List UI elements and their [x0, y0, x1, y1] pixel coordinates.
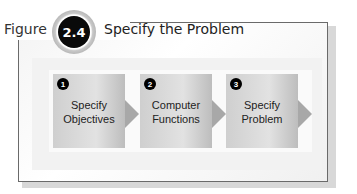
step-label-line1: Specify [226, 98, 298, 112]
step-label-line1: Specify [53, 98, 125, 112]
arrow-right-icon [125, 100, 139, 128]
step-2-arrow-box: 2 Computer Functions [140, 74, 224, 148]
step-1-arrow-box: 1 Specify Objectives [53, 74, 137, 148]
step-label-line2: Functions [140, 112, 212, 126]
step-number-badge: 2 [144, 78, 156, 90]
step-label-line1: Computer [140, 98, 212, 112]
step-label: Specify Objectives [53, 98, 125, 126]
step-3-arrow-box: 3 Specify Problem [226, 74, 310, 148]
step-number-badge: 1 [57, 78, 69, 90]
figure-title: Specify the Problem [104, 21, 244, 37]
figure-number-badge: 2.4 [58, 16, 90, 48]
arrow-right-icon [298, 100, 312, 128]
step-label: Specify Problem [226, 98, 298, 126]
arrow-right-icon [212, 100, 226, 128]
step-label: Computer Functions [140, 98, 212, 126]
step-label-line2: Objectives [53, 112, 125, 126]
step-number-badge: 3 [230, 78, 242, 90]
step-label-line2: Problem [226, 112, 298, 126]
figure-label: Figure [4, 21, 47, 37]
